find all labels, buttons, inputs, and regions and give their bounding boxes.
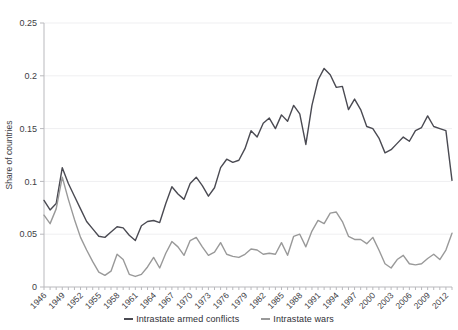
x-tick-label: 1970: [174, 290, 195, 311]
x-tick-label: 1985: [265, 290, 286, 311]
series-line-intrastate-wars: [44, 177, 452, 276]
x-tick-label: 1955: [83, 290, 104, 311]
x-tick-label: 1952: [65, 290, 86, 311]
x-tick-label: 1958: [101, 290, 122, 311]
series-line-intrastate-armed-conflicts: [44, 68, 452, 240]
x-tick-label: 1949: [46, 290, 67, 311]
legend-item-intrastate-armed-conflicts: Intrastate armed conflicts: [124, 314, 239, 324]
x-tick-label: 1946: [28, 290, 49, 311]
x-tick-label: 2000: [357, 290, 378, 311]
x-tick-label: 2009: [412, 290, 433, 311]
chart-container: 00.050.10.150.20.25Share of countries194…: [0, 0, 458, 330]
line-chart-plot: 00.050.10.150.20.25Share of countries194…: [0, 0, 458, 330]
y-axis-title: Share of countries: [4, 121, 14, 190]
x-tick-label: 1988: [284, 290, 305, 311]
y-tick-label: 0.25: [19, 18, 37, 28]
x-tick-label: 1973: [192, 290, 213, 311]
legend-swatch-wars: [261, 318, 270, 320]
legend-label-wars: Intrastate wars: [273, 314, 334, 324]
legend-label-armed-conflicts: Intrastate armed conflicts: [136, 314, 239, 324]
x-tick-label: 1961: [119, 290, 140, 311]
x-tick-label: 1991: [302, 290, 323, 311]
x-tick-label: 1982: [247, 290, 268, 311]
y-tick-label: 0.1: [24, 177, 37, 187]
x-tick-label: 2003: [375, 290, 396, 311]
x-tick-label: 1994: [320, 290, 341, 311]
y-tick-label: 0.15: [19, 124, 37, 134]
x-tick-label: 2012: [430, 290, 451, 311]
y-tick-label: 0.2: [24, 71, 37, 81]
y-tick-label: 0: [32, 282, 37, 292]
x-tick-label: 1964: [138, 290, 159, 311]
legend-swatch-armed-conflicts: [124, 318, 133, 320]
chart-legend: Intrastate armed conflicts Intrastate wa…: [0, 314, 458, 324]
legend-item-intrastate-wars: Intrastate wars: [261, 314, 334, 324]
x-tick-label: 1979: [229, 290, 250, 311]
x-tick-label: 2006: [393, 290, 414, 311]
y-tick-label: 0.05: [19, 229, 37, 239]
x-tick-label: 1997: [339, 290, 360, 311]
x-tick-label: 1976: [211, 290, 232, 311]
x-tick-label: 1967: [156, 290, 177, 311]
